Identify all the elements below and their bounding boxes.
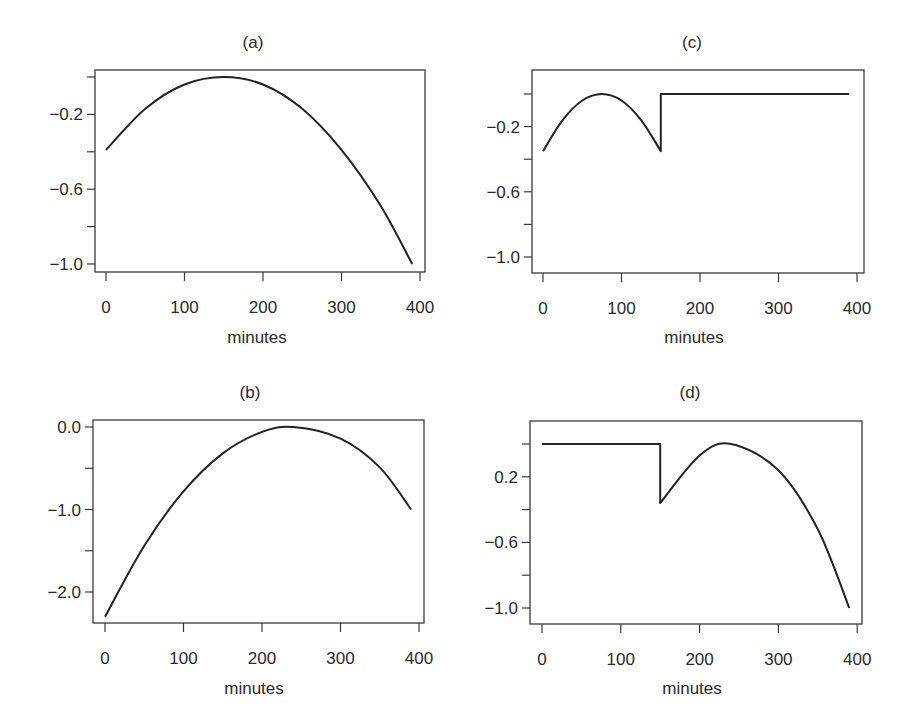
y-tick-label: −1.0 [484,599,518,618]
x-tick-label: 300 [327,298,355,317]
panel-d-x-label: minutes [662,679,722,698]
panel-d-y-axis: 0.2−0.6−1.0 [484,444,530,618]
x-tick-label: 400 [405,649,433,668]
panel-b-plot-area [93,420,424,623]
y-tick-label: −2.0 [47,583,81,602]
panel-b-y-axis: 0.0−1.0−2.0 [47,418,93,602]
x-tick-label: 0 [538,299,547,318]
x-tick-label: 200 [685,650,713,669]
panel-a-x-axis: 0100200300400 [101,272,434,317]
x-tick-label: 0 [537,650,546,669]
y-tick-label: 0.0 [57,418,81,437]
y-tick-label: −0.2 [486,118,520,137]
panel-d-plot-area [530,421,862,624]
panel-a-curve [106,77,412,264]
panel-c-x-axis: 0100200300400 [538,273,871,318]
x-tick-label: 300 [764,299,792,318]
x-tick-label: 200 [686,299,714,318]
x-tick-label: 300 [764,650,792,669]
panel-a-title: (a) [243,33,264,52]
panel-a-y-axis: −0.2−0.6−1.0 [49,77,95,274]
y-tick-label: −0.2 [49,105,83,124]
y-tick-label: −0.6 [49,180,83,199]
y-tick-label: −0.6 [484,533,518,552]
y-tick-label: −0.6 [486,183,520,202]
y-tick-label: −1.0 [486,248,520,267]
panel-c-x-label: minutes [664,328,724,347]
panel-d-curve [542,443,849,608]
panel-c: (c) −0.2−0.6−1.0 0100200300400 minutes [486,33,871,347]
y-tick-label: −1.0 [47,501,81,520]
panel-b: (b) 0.0−1.0−2.0 0100200300400 minutes [47,383,433,698]
x-tick-label: 100 [607,650,635,669]
figure: (a) −0.2−0.6−1.0 0100200300400 minutes (… [0,0,903,726]
panel-b-title: (b) [240,383,261,402]
panel-c-curve [543,94,849,151]
panel-c-title: (c) [682,33,702,52]
x-tick-label: 0 [100,649,109,668]
panel-b-curve [105,427,411,617]
x-tick-label: 100 [170,298,198,317]
x-tick-label: 200 [248,649,276,668]
x-tick-label: 200 [249,298,277,317]
panel-d-title: (d) [680,383,701,402]
x-tick-label: 400 [843,299,871,318]
panel-a-x-label: minutes [227,328,287,347]
x-tick-label: 400 [843,650,871,669]
x-tick-label: 300 [326,649,354,668]
panel-b-x-axis: 0100200300400 [100,623,433,668]
x-tick-label: 0 [101,298,110,317]
x-tick-label: 100 [607,299,635,318]
panel-d: (d) 0.2−0.6−1.0 0100200300400 minutes [484,383,871,698]
panel-b-x-label: minutes [224,679,284,698]
x-tick-label: 100 [169,649,197,668]
panel-a: (a) −0.2−0.6−1.0 0100200300400 minutes [49,33,434,347]
y-tick-label: 0.2 [494,468,518,487]
y-tick-label: −1.0 [49,255,83,274]
panel-c-y-axis: −0.2−0.6−1.0 [486,94,532,267]
panel-a-plot-area [95,70,425,272]
panel-d-x-axis: 0100200300400 [537,624,871,669]
x-tick-label: 400 [406,298,434,317]
